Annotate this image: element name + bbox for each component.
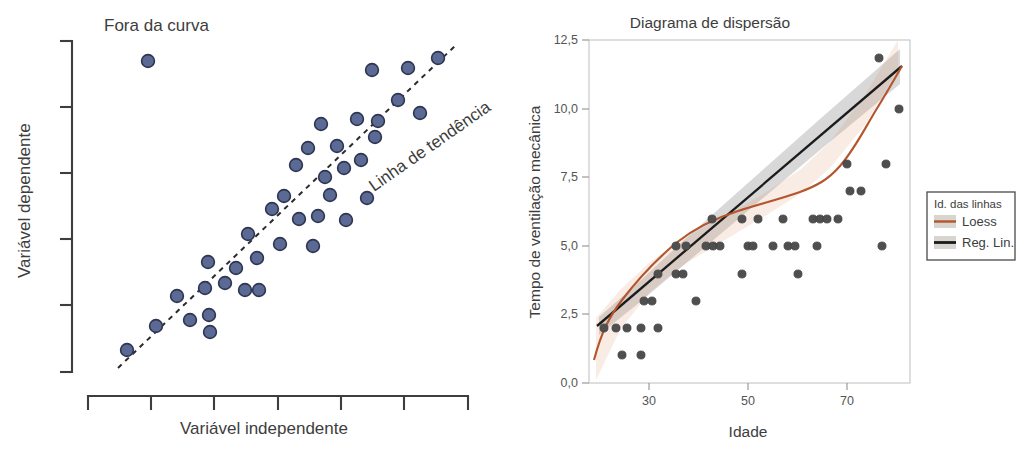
right-y-axis: 0,0 2,5 5,0 7,5 10,0 12,5 xyxy=(554,33,589,390)
x-tick-label-2: 70 xyxy=(840,394,854,408)
right-chart-title: Diagrama de dispersão xyxy=(630,14,790,31)
legend-title: Id. das linhas xyxy=(934,198,1002,210)
legend[interactable]: Id. das linhas Loess Reg. Lin. xyxy=(927,192,1015,260)
trendline-annotation: Linha de tendência xyxy=(365,97,494,195)
trend-line xyxy=(118,45,456,368)
outlier-point xyxy=(142,55,155,68)
right-x-axis-label: Idade xyxy=(729,423,768,440)
right-x-axis: 30 50 70 xyxy=(642,383,854,408)
x-tick-label-0: 30 xyxy=(642,394,656,408)
right-chart-panel: Diagrama de dispersão 0,0 2,5 5, xyxy=(510,0,1020,449)
left-y-axis xyxy=(60,41,72,372)
y-tick-label-3: 7,5 xyxy=(561,170,578,184)
right-chart-svg: Diagrama de dispersão 0,0 2,5 5, xyxy=(510,0,1020,449)
left-chart-panel: Fora da curva Linha de tendência Variáve… xyxy=(0,0,510,449)
legend-label-loess: Loess xyxy=(962,214,997,229)
linear-regression-line xyxy=(597,66,902,326)
y-tick-label-1: 2,5 xyxy=(561,307,578,321)
left-x-axis-label: Variável independente xyxy=(180,419,348,438)
x-tick-label-1: 50 xyxy=(741,394,755,408)
figure-root: Fora da curva Linha de tendência Variáve… xyxy=(0,0,1020,449)
left-scatter-points xyxy=(121,52,445,357)
right-y-axis-label: Tempo de ventilação mecânica xyxy=(526,105,543,318)
legend-label-reglin: Reg. Lin. xyxy=(962,235,1014,250)
outlier-annotation: Fora da curva xyxy=(104,16,209,35)
high-outlier-point xyxy=(875,54,883,62)
legend-item-loess[interactable]: Loess xyxy=(934,214,997,229)
left-x-axis xyxy=(88,396,468,410)
left-chart-svg: Fora da curva Linha de tendência Variáve… xyxy=(0,0,510,449)
y-tick-label-5: 12,5 xyxy=(554,33,578,47)
y-tick-label-2: 5,0 xyxy=(561,239,578,253)
legend-item-reglin[interactable]: Reg. Lin. xyxy=(934,235,1014,250)
y-tick-label-4: 10,0 xyxy=(554,102,578,116)
left-y-axis-label: Variável dependente xyxy=(15,123,34,278)
y-tick-label-0: 0,0 xyxy=(561,376,578,390)
